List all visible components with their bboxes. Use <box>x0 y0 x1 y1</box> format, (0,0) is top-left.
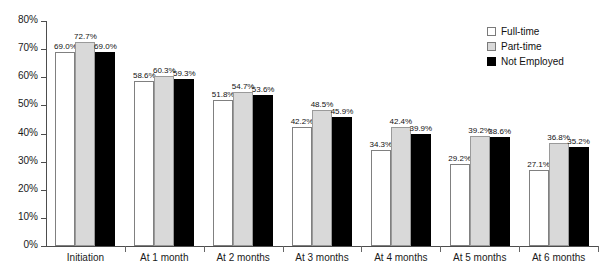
y-axis-tick-label: 20% <box>18 183 38 194</box>
y-axis-tick-label: 70% <box>18 42 38 53</box>
bar <box>55 52 75 246</box>
bar-value-label: 35.2% <box>562 137 596 146</box>
legend-swatch-part-time <box>487 42 496 51</box>
y-axis-tick-label: 30% <box>18 155 38 166</box>
y-axis-tick-mark <box>41 134 46 135</box>
y-axis-tick-mark <box>41 218 46 219</box>
y-axis-tick-label: 0% <box>24 239 38 250</box>
bar <box>332 117 352 246</box>
x-axis-category-label: At 4 months <box>361 252 440 264</box>
bar <box>213 100 233 246</box>
y-axis-tick-mark <box>41 105 46 106</box>
bar <box>312 110 332 246</box>
bar <box>569 147 589 246</box>
x-axis-category-label: Initiation <box>46 252 125 264</box>
legend-item: Not Employed <box>487 54 564 68</box>
bar-value-label: 59.3% <box>167 69 201 78</box>
legend-item: Full-time <box>487 24 564 38</box>
x-axis-category-label: At 3 months <box>283 252 362 264</box>
bar <box>75 42 95 246</box>
y-axis-tick-label: 80% <box>18 14 38 25</box>
bar-value-label: 39.9% <box>404 124 438 133</box>
bar <box>292 127 312 246</box>
bar <box>134 81 154 246</box>
bar <box>253 95 273 246</box>
y-axis-tick-label: 50% <box>18 98 38 109</box>
bar <box>233 92 253 246</box>
bar <box>549 143 569 247</box>
x-axis-category-label: At 6 months <box>519 252 598 264</box>
bar-value-label: 53.6% <box>246 85 280 94</box>
y-axis-tick-mark <box>41 77 46 78</box>
y-axis-tick-label: 60% <box>18 70 38 81</box>
legend-label: Part-time <box>501 41 542 52</box>
y-axis-tick-mark <box>41 21 46 22</box>
legend: Full-timePart-timeNot Employed <box>487 24 564 69</box>
bar-value-label: 72.7% <box>68 32 102 41</box>
bar <box>174 79 194 246</box>
bar <box>450 164 470 246</box>
y-axis-tick-mark <box>41 190 46 191</box>
y-axis-tick-mark <box>41 49 46 50</box>
x-axis-tick-mark <box>598 246 599 252</box>
x-axis-line <box>46 246 598 247</box>
bar <box>391 127 411 246</box>
legend-label: Not Employed <box>501 56 564 67</box>
legend-swatch-not-employed <box>487 57 496 66</box>
y-axis-tick-label: 10% <box>18 211 38 222</box>
x-axis-category-label: At 5 months <box>440 252 519 264</box>
bar <box>529 170 549 246</box>
y-axis-tick-mark <box>41 162 46 163</box>
y-axis-line <box>46 21 47 247</box>
x-axis-category-label: At 1 month <box>125 252 204 264</box>
bar-value-label: 45.9% <box>325 107 359 116</box>
y-axis-tick-label: 40% <box>18 127 38 138</box>
legend-swatch-full-time <box>487 27 496 36</box>
bar-chart: 80%70%60%50%40%30%20%10%0% 69.0%72.7%69.… <box>0 0 604 280</box>
y-axis-tick-mark <box>41 246 46 247</box>
legend-item: Part-time <box>487 39 564 53</box>
bar <box>154 76 174 246</box>
bar <box>470 136 490 246</box>
bar <box>411 134 431 246</box>
bar <box>371 150 391 246</box>
bar-value-label: 69.0% <box>88 42 122 51</box>
bar <box>490 137 510 246</box>
bar <box>95 52 115 246</box>
bar-value-label: 38.6% <box>483 127 517 136</box>
x-axis-category-label: At 2 months <box>204 252 283 264</box>
legend-label: Full-time <box>501 26 539 37</box>
